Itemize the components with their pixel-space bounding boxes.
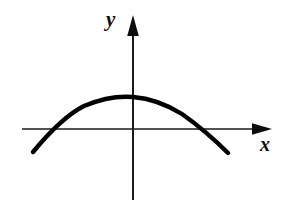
x-axis-label: x [260,134,270,154]
arrow-up-icon [127,15,139,36]
y-axis-label: y [106,9,115,30]
coordinate-plane-graphic [0,0,303,207]
parabola-figure: y x [0,0,303,207]
parabola-curve [33,97,228,153]
